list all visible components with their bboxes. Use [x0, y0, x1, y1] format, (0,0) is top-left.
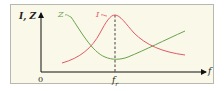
i-curve-label: I — [96, 11, 99, 19]
fr-sub: r — [115, 80, 118, 87]
z-label-leader — [65, 15, 71, 17]
resonance-frequency-label: fr — [112, 76, 118, 87]
z-curve-label: Z — [58, 11, 64, 19]
origin-label: 0 — [38, 76, 43, 84]
i-label-leader — [101, 15, 107, 16]
y-axis-label: I, Z — [19, 12, 36, 21]
x-axis-label: f — [208, 67, 211, 76]
z-curve — [71, 17, 185, 59]
